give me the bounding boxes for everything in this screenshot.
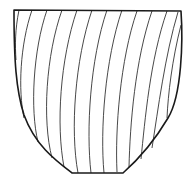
hatch-line [129, 11, 152, 167]
hatch-line [34, 10, 47, 142]
hatch-line [15, 10, 19, 60]
hatch-line [47, 10, 62, 158]
hatch-line [21, 10, 32, 118]
hatch-line [152, 12, 178, 148]
hatching-group [15, 10, 181, 173]
vessel-diagram [0, 0, 190, 183]
hatch-line [103, 10, 122, 173]
hatch-line [89, 10, 107, 173]
vessel-outline [14, 10, 182, 173]
